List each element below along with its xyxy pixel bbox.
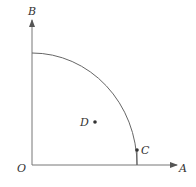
label-d: D xyxy=(79,116,89,129)
point-c xyxy=(135,148,139,152)
point-d xyxy=(93,120,97,124)
label-b: B xyxy=(27,5,36,18)
geometry-diagram: B O A C D xyxy=(0,0,196,187)
label-o: O xyxy=(17,162,26,175)
label-c: C xyxy=(141,144,150,157)
label-a: A xyxy=(178,162,187,175)
quarter-arc xyxy=(32,53,137,165)
